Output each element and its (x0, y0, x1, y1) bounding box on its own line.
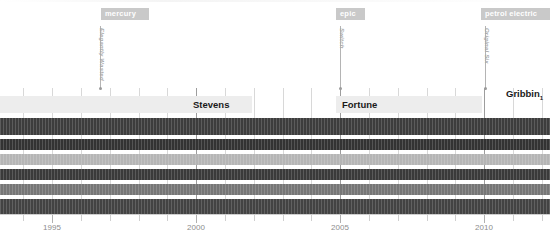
era-petrol-electric[interactable]: petrol electric (481, 8, 550, 20)
gridline-minor (311, 88, 312, 214)
bar-row-1[interactable] (0, 118, 550, 135)
axis-tick-minor (225, 215, 226, 221)
label-stevens[interactable]: Stevens (193, 96, 229, 113)
bar-row-6[interactable] (0, 199, 550, 214)
bar-row-2-texture (0, 139, 550, 150)
axis-tick-minor (398, 215, 399, 221)
top-fade-strip (0, 0, 550, 2)
axis-tick-major (340, 215, 341, 223)
axis-tick-major (484, 215, 485, 223)
axis-tick-minor (254, 215, 255, 221)
axis-baseline (0, 214, 550, 215)
axis-tick-minor (369, 215, 370, 221)
axis-tick-minor (513, 215, 514, 221)
bar-row-6-texture (0, 199, 550, 214)
axis-tick-minor (81, 215, 82, 221)
axis-tick-minor (167, 215, 168, 221)
gridline-minor (513, 88, 514, 214)
label-gribbin-text: Gribbin (506, 88, 540, 99)
axis-tick-minor (455, 215, 456, 221)
axis-tick-major (196, 215, 197, 223)
axis-tick-minor (427, 215, 428, 221)
bar-row-3-texture (0, 154, 550, 165)
label-gribbin[interactable]: Gribbin1 (506, 85, 543, 104)
label-stevens-text: Stevens (193, 99, 229, 110)
axis-label-1995: 1995 (43, 223, 61, 232)
bar-row-3[interactable] (0, 154, 550, 165)
axis-tick-minor (542, 215, 543, 221)
axis-tick-major (52, 215, 53, 223)
era-mercury[interactable]: mercury (101, 8, 149, 20)
bar-row-4-texture (0, 169, 550, 180)
label-fortune[interactable]: Fortune (342, 96, 377, 113)
timeline-chart: mercuryepicpetrol electric Elegantly Was… (0, 0, 550, 234)
bar-row-4[interactable] (0, 169, 550, 180)
axis-tick-minor (110, 215, 111, 221)
axis-label-2000: 2000 (187, 223, 205, 232)
axis-tick-minor (139, 215, 140, 221)
event-original-six-label: Original Six (484, 28, 490, 64)
era-epic[interactable]: epic (336, 8, 365, 20)
axis-tick-minor (283, 215, 284, 221)
event-switch-label: Switch (339, 28, 345, 49)
bar-row-5-texture (0, 184, 550, 195)
axis-tick-minor (311, 215, 312, 221)
bar-row-5[interactable] (0, 184, 550, 195)
event-elegantly-wasted-dot (99, 87, 102, 90)
gridline-minor (542, 88, 543, 214)
bar-row-2[interactable] (0, 139, 550, 150)
gridline-minor (254, 88, 255, 214)
axis-label-2010: 2010 (475, 223, 493, 232)
bar-row-1-texture (0, 118, 550, 135)
label-fortune-text: Fortune (342, 99, 377, 110)
gridline-minor (283, 88, 284, 214)
axis-label-2005: 2005 (331, 223, 349, 232)
axis-tick-minor (23, 215, 24, 221)
event-elegantly-wasted-label: Elegantly Wasted (99, 28, 105, 81)
gridline-major (484, 88, 485, 214)
label-gribbin-subscript: 1 (540, 95, 543, 101)
